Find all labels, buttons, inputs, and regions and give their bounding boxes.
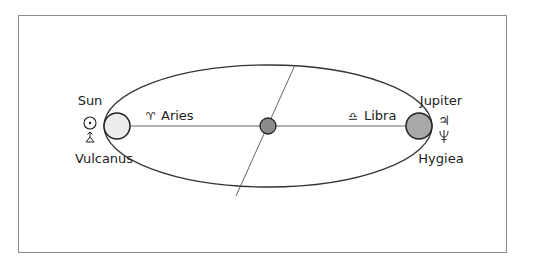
vulcanus-symbol-icon [86, 132, 94, 142]
left-body-sun [104, 113, 130, 139]
libra-label: Libra [364, 108, 396, 123]
sun-symbol-icon [84, 117, 96, 129]
hygiea-symbol-icon [440, 130, 448, 143]
aries-symbol-icon: ♈ [146, 110, 156, 123]
jupiter-symbol-icon: ♃ [438, 113, 450, 128]
hygiea-label: Hygiea [418, 151, 463, 166]
jupiter-label: Jupiter [419, 93, 463, 108]
right-body-jupiter [406, 113, 432, 139]
sun-label: Sun [78, 93, 103, 108]
libra-symbol-icon: ♎ [348, 110, 358, 123]
center-body [260, 118, 276, 134]
aries-label: Aries [161, 108, 194, 123]
orbit-diagram: Sun Vulcanus Jupiter ♃ Hygiea ♈ Aries ♎ … [0, 0, 533, 268]
vulcanus-label: Vulcanus [75, 151, 133, 166]
